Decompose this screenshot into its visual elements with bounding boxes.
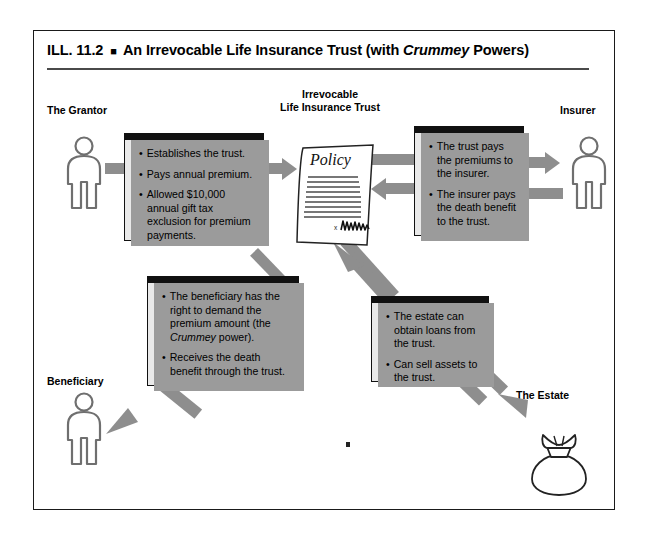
beneficiary-rights-list: The beneficiary has the right to demand …: [148, 277, 298, 383]
connector-insurerbox-to-policy-shaft: [386, 183, 414, 194]
arrowhead-grantorbox-to-policy: [282, 158, 297, 180]
list-item-text-1: The beneficiary has the right to demand …: [170, 290, 280, 329]
list-item: The beneficiary has the right to demand …: [162, 290, 292, 344]
list-item: The estate can obtain loans from the tru…: [386, 310, 482, 351]
list-item-text-2: power).: [216, 331, 254, 343]
grantor-duties-list: Establishes the trust. Pays annual premi…: [125, 134, 263, 247]
list-item: Allowed $10,000 annual gift tax exclusio…: [139, 188, 257, 242]
figure-title-text-1: An Irrevocable Life Insurance Trust (wit…: [123, 42, 403, 58]
list-item: Establishes the trust.: [139, 147, 257, 161]
policy-rule-line: [304, 211, 361, 213]
arrowhead-estatebox-to-estate: [494, 390, 536, 432]
connector-insurer-to-insurerbox: [523, 188, 563, 199]
policy-rule-line: [307, 186, 360, 188]
list-item: The trust pays the premiums to the insur…: [429, 140, 517, 181]
label-beneficiary: Beneficiary: [47, 375, 104, 388]
trust-insurer-flows-list: The trust pays the premiums to the insur…: [415, 127, 523, 233]
grantor-duties-box: Establishes the trust. Pays annual premi…: [124, 133, 264, 241]
policy-rule-line: [306, 191, 360, 193]
policy-rule-line: [305, 206, 361, 208]
label-insurer: Insurer: [560, 104, 596, 117]
page-title: ILL. 11.2■An Irrevocable Life Insurance …: [47, 42, 603, 58]
figure-title-text-2: Powers): [469, 42, 529, 58]
list-item: Pays annual premium.: [139, 168, 257, 182]
policy-rule-line: [307, 181, 359, 183]
policy-rule-line: [308, 176, 358, 178]
estate-transactions-list: The estate can obtain loans from the tru…: [372, 297, 488, 389]
list-item: The insurer pays the death benefit to th…: [429, 188, 517, 229]
label-grantor: The Grantor: [47, 104, 107, 117]
list-item: Can sell assets to the trust.: [386, 358, 482, 385]
policy-rule-line: [305, 201, 361, 203]
box-top-bar: [371, 296, 489, 303]
estate-transactions-box: The estate can obtain loans from the tru…: [371, 296, 489, 382]
beneficiary-rights-box: The beneficiary has the right to demand …: [147, 276, 299, 386]
label-trust-line1: Irrevocable: [302, 88, 358, 100]
insurer-person-icon: [565, 136, 613, 210]
policy-heading: Policy: [310, 151, 351, 169]
arrowhead-beneficiarybox-to-beneficiary: [104, 400, 144, 440]
crummey-italic: Crummey: [170, 331, 216, 343]
title-divider: [47, 68, 589, 70]
money-bag-icon: [523, 427, 595, 499]
policy-signature-mark: x: [334, 224, 337, 231]
trust-insurer-flows-box: The trust pays the premiums to the insur…: [414, 126, 524, 236]
figure-number: ILL. 11.2: [47, 42, 103, 58]
box-top-bar: [414, 126, 524, 133]
grantor-person-icon: [60, 136, 108, 210]
label-trust: Irrevocable Life Insurance Trust: [272, 88, 388, 114]
box-top-bar: [147, 276, 299, 283]
label-trust-line2: Life Insurance Trust: [280, 101, 380, 113]
connector-policy-to-insurerbox: [372, 154, 414, 165]
figure-page: ILL. 11.2■An Irrevocable Life Insurance …: [0, 0, 650, 534]
box-top-bar: [124, 133, 264, 140]
scan-artifact: [346, 442, 350, 447]
figure-title-italic: Crummey: [403, 42, 469, 58]
policy-signature-squiggle-icon: [340, 218, 370, 234]
list-item: Receives the death benefit through the t…: [162, 351, 292, 378]
figure-title-area: ILL. 11.2■An Irrevocable Life Insurance …: [47, 42, 603, 58]
policy-rule-line: [306, 196, 361, 198]
beneficiary-person-icon: [60, 392, 108, 466]
arrowhead-insurerbox-to-insurer: [545, 152, 560, 174]
title-separator-icon: ■: [110, 45, 117, 57]
policy-document: Policy x: [296, 144, 374, 246]
